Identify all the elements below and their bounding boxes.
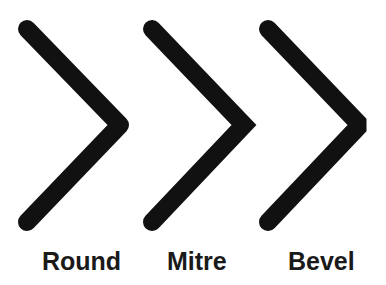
round-join-chevron [27,29,120,222]
mitre-label: Mitre [167,246,227,276]
bevel-join-chevron [268,29,360,222]
mitre-join-chevron [152,29,244,222]
bevel-label: Bevel [288,246,355,276]
line-join-diagram [0,0,386,285]
round-label: Round [42,246,121,276]
